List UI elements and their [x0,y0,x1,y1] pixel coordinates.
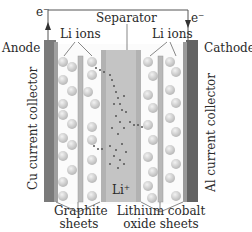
licoo2-label-line2: oxide sheets [116,218,206,230]
al-collector-label: Al current collector [204,73,218,192]
li-ions-label-left: Li ions [60,28,101,40]
separator-label: Separator [96,12,157,24]
electron-label-right: e⁻ [191,12,204,24]
cu-collector-label: Cu current collector [26,67,40,190]
arrow-up-icon [45,22,51,30]
graphite-label-line2: sheets [54,218,104,230]
licoo2-sheet [158,56,163,202]
al-current-collector [186,40,198,202]
li-ions-label-right: Li ions [152,28,193,40]
electron-label-left: e⁻ [36,6,49,18]
graphite-label-line1: Graphite [54,205,104,217]
cathode-label: Cathode [204,42,252,54]
licoo2-label-line1: Lithium cobalt [116,205,206,217]
graphite-sheet [78,56,83,202]
li-plus-label: Li⁺ [112,184,130,196]
anode-label: Anode [2,42,40,54]
